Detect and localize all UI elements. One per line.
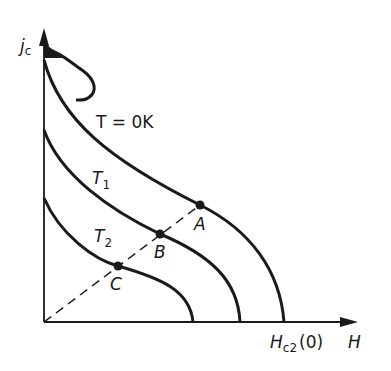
x-axis-label: H	[348, 332, 361, 352]
curve-t2	[44, 198, 193, 322]
point-label-b: B	[154, 242, 166, 262]
y-axis-label: jc	[18, 36, 31, 58]
point-b	[156, 230, 165, 239]
point-c	[114, 262, 123, 271]
curve-label-t2: T2	[94, 226, 112, 250]
point-a	[196, 201, 205, 210]
curve-t1	[44, 130, 240, 322]
curve-label-t0: T = 0K	[95, 112, 154, 132]
x-axis-arrow-icon	[340, 317, 358, 327]
curve-label-t1: T1	[92, 168, 110, 192]
load-line	[44, 205, 200, 322]
point-label-c: C	[110, 274, 122, 294]
point-label-a: A	[193, 214, 206, 234]
jc-vs-h-diagram: jc T = 0K T1 T2 A B C Hc2(0) H	[0, 0, 391, 371]
hc2-label: Hc2(0)	[270, 332, 323, 355]
